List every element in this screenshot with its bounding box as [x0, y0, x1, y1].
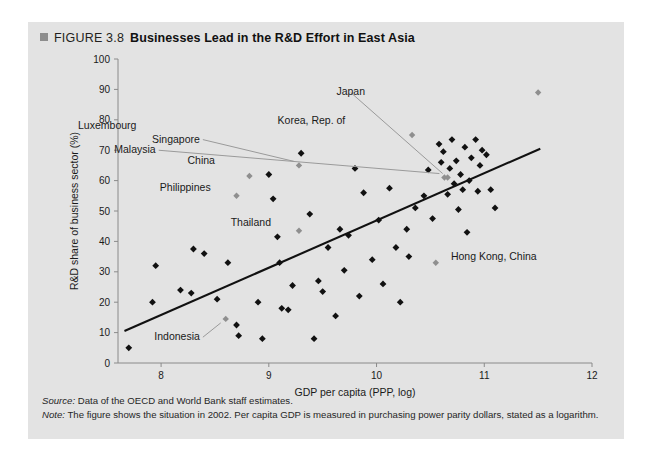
- data-point: [461, 144, 468, 151]
- data-point: [393, 244, 400, 251]
- data-point: [444, 191, 451, 198]
- data-point: [235, 332, 242, 339]
- data-point: [177, 287, 184, 294]
- data-point: [278, 305, 285, 312]
- data-point: [152, 262, 159, 269]
- data-point: [474, 188, 481, 195]
- highlighted-data-point: [433, 259, 439, 265]
- data-point: [457, 171, 464, 178]
- data-point: [265, 171, 272, 178]
- leader-line: [351, 92, 443, 173]
- data-point: [468, 154, 475, 161]
- highlighted-data-point: [233, 193, 239, 199]
- highlighted-data-point: [296, 162, 302, 168]
- chart-plot-area: 010203040506070809010089101112GDP per ca…: [28, 22, 624, 439]
- highlighted-data-point: [535, 89, 541, 95]
- data-point: [289, 282, 296, 289]
- data-point: [483, 151, 490, 158]
- data-point-label: Luxembourg: [78, 119, 137, 131]
- data-point: [472, 136, 479, 143]
- data-point: [464, 229, 471, 236]
- data-point: [369, 256, 376, 263]
- figure-panel: FIGURE 3.8 Businesses Lead in the R&D Ef…: [28, 22, 624, 439]
- data-point: [270, 195, 277, 202]
- data-point: [492, 205, 499, 212]
- y-tick-label: 0: [104, 358, 110, 369]
- data-point: [125, 344, 132, 351]
- data-point: [487, 186, 494, 193]
- data-point: [319, 288, 326, 295]
- data-point: [356, 293, 363, 300]
- data-point-label: Hong Kong, China: [451, 250, 537, 262]
- data-point: [214, 296, 221, 303]
- y-tick-label: 20: [99, 297, 111, 308]
- data-point-label: Indonesia: [154, 330, 200, 342]
- data-point: [440, 148, 447, 155]
- x-tick-label: 8: [158, 370, 164, 381]
- highlighted-data-point: [409, 132, 415, 138]
- data-point-label: Malaysia: [114, 143, 156, 155]
- data-point: [188, 290, 195, 297]
- source-note: Source: Data of the OECD and World Bank …: [42, 394, 610, 408]
- y-axis-title: R&D share of business sector (%): [68, 132, 80, 290]
- y-tick-label: 70: [99, 145, 111, 156]
- data-point-label: Korea, Rep. of: [278, 114, 346, 126]
- x-tick-label: 9: [266, 370, 272, 381]
- data-point: [298, 150, 305, 157]
- data-point-label: Singapore: [152, 133, 200, 145]
- y-tick-label: 90: [99, 84, 111, 95]
- data-point: [429, 215, 436, 222]
- highlighted-data-point: [223, 316, 229, 322]
- data-point: [201, 250, 208, 257]
- data-point: [438, 159, 445, 166]
- data-point: [455, 206, 462, 213]
- scatter-chart: 010203040506070809010089101112GDP per ca…: [28, 22, 624, 439]
- figure-notes: Source: Data of the OECD and World Bank …: [42, 394, 610, 422]
- data-point: [360, 189, 367, 196]
- highlighted-data-point: [246, 173, 252, 179]
- data-point: [306, 211, 313, 218]
- y-tick-label: 10: [99, 327, 111, 338]
- note-text: The figure shows the situation in 2002. …: [65, 409, 598, 420]
- data-point: [332, 312, 339, 319]
- data-point-label: China: [188, 154, 216, 166]
- data-point: [337, 226, 344, 233]
- data-point: [453, 157, 460, 164]
- y-tick-label: 40: [99, 236, 111, 247]
- y-tick-label: 100: [93, 54, 110, 65]
- data-point: [325, 244, 332, 251]
- data-point: [477, 162, 484, 169]
- y-tick-label: 60: [99, 175, 111, 186]
- data-point: [403, 226, 410, 233]
- note-line: Note: The figure shows the situation in …: [42, 408, 610, 422]
- data-point: [149, 299, 156, 306]
- data-point: [341, 267, 348, 274]
- data-point: [479, 147, 486, 154]
- data-point-label: Thailand: [231, 216, 271, 228]
- x-tick-label: 11: [479, 370, 490, 381]
- leader-line: [203, 323, 221, 337]
- data-point: [255, 299, 262, 306]
- highlighted-data-point: [296, 228, 302, 234]
- data-point: [190, 246, 197, 253]
- data-point: [449, 136, 456, 143]
- data-point: [380, 281, 387, 288]
- y-tick-label: 30: [99, 266, 111, 277]
- note-label: Note:: [42, 409, 65, 420]
- data-point: [259, 335, 266, 342]
- y-tick-label: 50: [99, 206, 111, 217]
- data-point: [311, 335, 318, 342]
- data-point: [224, 259, 231, 266]
- x-tick-label: 10: [371, 370, 383, 381]
- data-point: [436, 141, 443, 148]
- data-point: [386, 185, 393, 192]
- data-point-label: Philippines: [160, 181, 211, 193]
- data-point: [285, 306, 292, 313]
- source-label: Source:: [42, 395, 75, 406]
- trend-line: [124, 149, 540, 331]
- data-point: [446, 165, 453, 172]
- data-point: [405, 253, 412, 260]
- source-text: Data of the OECD and World Bank staff es…: [75, 395, 293, 406]
- data-point: [315, 278, 322, 285]
- highlighted-data-point: [441, 174, 447, 180]
